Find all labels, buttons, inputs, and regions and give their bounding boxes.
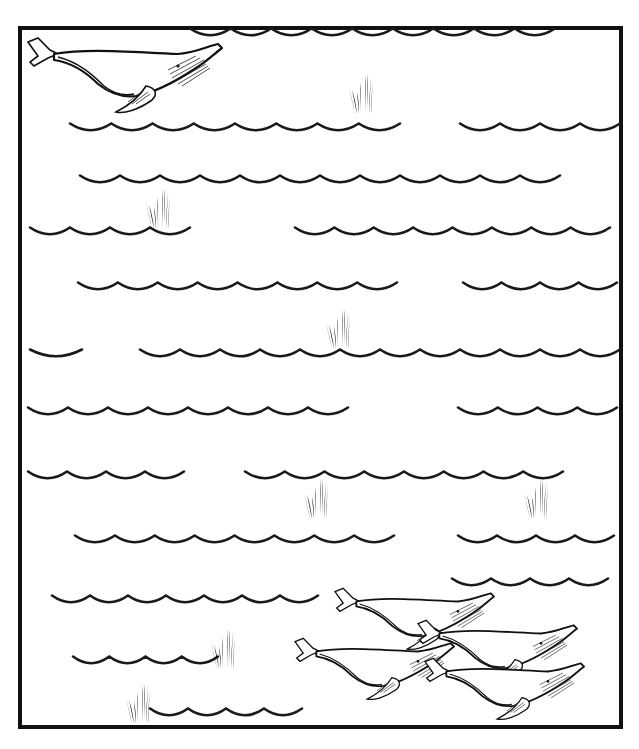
wave-line (245, 472, 563, 479)
whales (28, 38, 584, 719)
kelp-icon (349, 74, 373, 114)
wave-line (295, 228, 610, 235)
wave-rows (28, 29, 620, 716)
wave-line (140, 350, 620, 357)
kelp-icon (326, 309, 350, 349)
ocean-scene (0, 0, 639, 749)
kelp-icon (211, 629, 235, 669)
wave-line (73, 657, 218, 664)
wave-line (30, 228, 190, 235)
wave-line (75, 536, 394, 543)
wave-line (458, 536, 614, 543)
wave-line (30, 350, 82, 357)
wave-line (80, 176, 560, 183)
wave-line (78, 283, 397, 290)
kelp-icon (126, 684, 150, 724)
wave-line (463, 283, 617, 290)
kelp-icon (146, 189, 170, 229)
kelp-plants (126, 74, 548, 724)
maze-frame (20, 28, 621, 727)
wave-line (460, 124, 620, 131)
kelp-icon (524, 479, 548, 519)
wave-line (28, 408, 348, 415)
wave-line (70, 124, 400, 131)
wave-line (452, 579, 608, 586)
whale-icon (28, 38, 222, 113)
kelp-icon (304, 479, 328, 519)
wave-line (150, 709, 302, 716)
wave-line (458, 408, 617, 415)
wave-line (52, 596, 318, 603)
wave-line (28, 472, 184, 479)
